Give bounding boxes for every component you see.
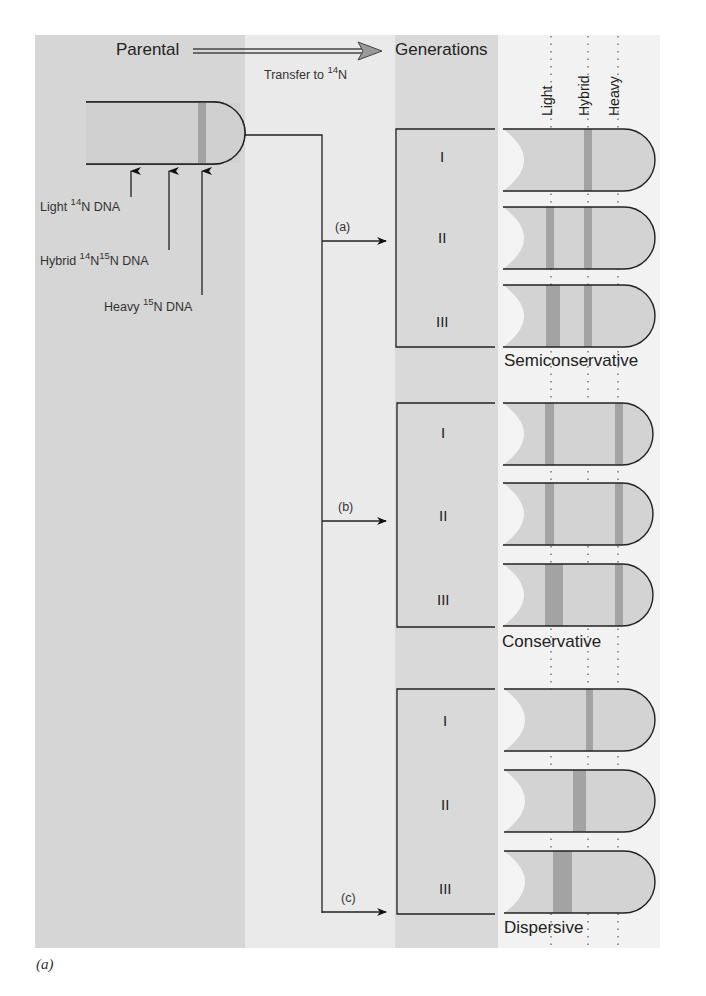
tube-semi-2 [503,207,655,269]
label-hybrid-dna: Hybrid 14N15N DNA [40,250,149,268]
gen-disp-2: II [441,796,449,813]
parental-tube [86,102,245,164]
gen-disp-3: III [439,880,452,897]
branch-label-c: (c) [341,891,356,905]
tube-disp-1 [504,689,655,751]
diagram-graphics [0,0,706,996]
column-label-hybrid: Hybrid [576,76,592,116]
figure-caption: (a) [36,956,54,973]
label-light-dna: Light 14N DNA [40,196,120,214]
model-name-semiconservative: Semiconservative [504,351,638,371]
column-label-heavy: Heavy [606,76,622,116]
gen-disp-1: I [443,712,447,729]
model-name-dispersive: Dispersive [504,918,583,938]
branch-label-a: (a) [335,220,350,234]
gen-cons-2: II [439,507,447,524]
column-label-light: Light [539,86,555,116]
generations-title: Generations [395,40,488,60]
tube-cons-3 [503,564,653,626]
tube-cons-2 [503,483,653,545]
transfer-label: Transfer to 14N [264,64,347,82]
header-arrow-icon [193,42,382,60]
parental-title: Parental [116,40,179,60]
branch-label-b: (b) [338,500,353,514]
tube-disp-2 [504,770,655,832]
tube-cons-1 [503,403,653,465]
tube-disp-3 [504,851,655,913]
gen-semi-2: II [438,229,446,246]
tube-semi-3 [503,285,655,347]
gen-semi-1: I [440,148,444,165]
gen-semi-3: III [436,313,449,330]
gen-cons-1: I [441,424,445,441]
gen-cons-3: III [437,591,450,608]
tube-semi-1 [503,129,655,191]
label-heavy-dna: Heavy 15N DNA [104,296,192,314]
model-name-conservative: Conservative [502,632,601,652]
